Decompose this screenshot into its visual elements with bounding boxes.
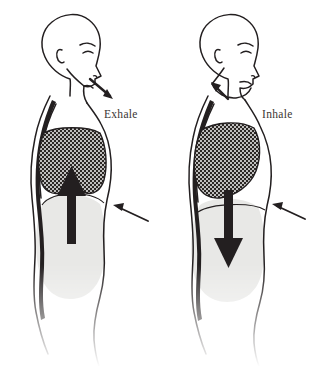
- diagram-canvas: Exhale Inhale: [0, 0, 316, 367]
- exhale-label: Exhale: [104, 108, 138, 120]
- inhale-label: Inhale: [262, 108, 293, 120]
- breathing-diagram: Exhale Inhale: [0, 0, 316, 367]
